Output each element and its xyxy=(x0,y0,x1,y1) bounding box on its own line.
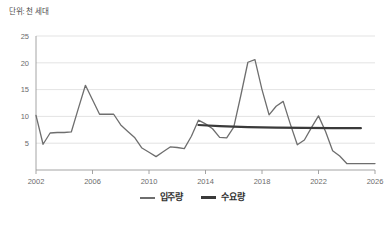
y-axis-tick-label-1: 10 xyxy=(21,112,29,121)
x-axis-tick-label-4: 2018 xyxy=(254,177,271,186)
legend-label-0: 입주량 xyxy=(160,192,183,203)
x-axis-tick-label-2: 2010 xyxy=(141,177,158,186)
x-axis-tick-label-6: 2026 xyxy=(367,177,384,186)
line-swatch-icon xyxy=(140,197,155,199)
y-axis-tick-label-2: 15 xyxy=(21,85,29,94)
x-axis-tick-label-1: 2006 xyxy=(84,177,101,186)
y-axis-tick-label-3: 20 xyxy=(21,59,29,68)
legend-item-0: 입주량 xyxy=(140,192,183,203)
legend-item-1: 수요량 xyxy=(201,192,244,203)
x-axis-tick-label-3: 2014 xyxy=(197,177,214,186)
chart-container: 단위: 천 세대 5101520252002200620102014201820… xyxy=(0,0,384,228)
legend-label-1: 수요량 xyxy=(221,192,244,203)
chart-legend: 입주량 수요량 xyxy=(0,192,384,203)
series-line-0 xyxy=(36,60,375,164)
x-axis-tick-label-0: 2002 xyxy=(28,177,45,186)
line-swatch-icon xyxy=(201,196,216,199)
y-axis-tick-label-0: 5 xyxy=(25,139,29,148)
series-line-1 xyxy=(198,125,360,128)
y-axis-tick-label-4: 25 xyxy=(21,32,29,41)
x-axis-tick-label-5: 2022 xyxy=(310,177,327,186)
